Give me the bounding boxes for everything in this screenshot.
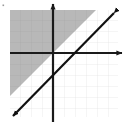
graph-screenshot xyxy=(0,0,127,125)
coordinate-plane-graph xyxy=(0,0,127,125)
corner-mark-icon xyxy=(3,5,5,7)
